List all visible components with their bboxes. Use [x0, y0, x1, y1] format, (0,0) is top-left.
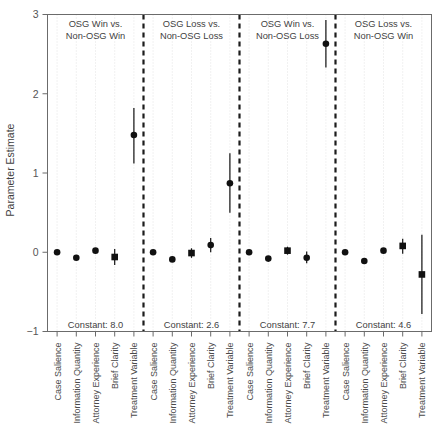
- estimate-point-group: [207, 238, 214, 252]
- y-tick-label: −1: [27, 325, 39, 337]
- x-category-label: Case Salience: [53, 343, 63, 401]
- panel-constant-label: Constant: 7.7: [260, 320, 315, 330]
- estimate-point-group: [380, 247, 387, 254]
- x-category-label: Treatment Variable: [129, 343, 139, 419]
- estimate-point-group: [188, 248, 195, 258]
- plot-canvas: Parameter Estimate 3210−1 OSG Win vs.Non…: [0, 0, 439, 443]
- estimate-point-group: [284, 247, 291, 255]
- estimate-point-group: [92, 247, 99, 254]
- x-category-label: Treatment Variable: [417, 343, 427, 419]
- estimate-marker-circle: [73, 254, 80, 261]
- panel-title-line1: OSG Win vs.: [261, 19, 315, 29]
- x-category-label: Case Salience: [245, 343, 255, 401]
- y-tick-label: 2: [33, 88, 39, 100]
- x-axis-category-labels: Case SalienceInformation QuantityAttorne…: [53, 342, 428, 424]
- panel-title-line1: OSG Loss vs.: [163, 19, 220, 29]
- y-tick-label: 3: [33, 8, 39, 20]
- panel-constant-label: Constant: 8.0: [68, 320, 123, 330]
- estimate-point-group: [131, 108, 138, 163]
- x-category-label: Brief Clarity: [206, 342, 216, 389]
- coefficient-plot-figure: Parameter Estimate 3210−1 OSG Win vs.Non…: [0, 0, 439, 443]
- estimate-marker-square: [188, 250, 195, 257]
- x-category-label: Attorney Experience: [91, 343, 101, 424]
- estimate-point-group: [246, 249, 253, 256]
- y-axis-ticks: 3210−1: [27, 8, 48, 337]
- estimate-marker-circle: [323, 41, 330, 48]
- panel-title-line2: Non-OSG Win: [66, 31, 125, 41]
- estimate-point-group: [265, 255, 272, 262]
- estimate-point-group: [303, 251, 310, 263]
- x-category-label: Brief Clarity: [398, 342, 408, 389]
- estimate-marker-circle: [246, 249, 253, 256]
- estimate-point-group: [73, 254, 80, 261]
- estimate-marker-circle: [380, 247, 387, 254]
- estimate-marker-square: [111, 254, 118, 261]
- estimate-marker-circle: [131, 132, 138, 139]
- estimate-point-group: [54, 249, 61, 256]
- y-tick-label: 1: [33, 167, 39, 179]
- x-category-label: Attorney Experience: [283, 343, 293, 424]
- estimate-marker-circle: [54, 249, 61, 256]
- panel-title-line1: OSG Win vs.: [69, 19, 123, 29]
- x-category-label: Information Quantity: [360, 342, 370, 424]
- panel-constant-label: Constant: 2.6: [164, 320, 219, 330]
- estimate-point-group: [399, 239, 406, 254]
- estimate-point-group: [419, 235, 426, 314]
- estimate-marker-circle: [265, 255, 272, 262]
- estimate-point-group: [227, 153, 234, 212]
- estimate-point-group: [169, 256, 176, 263]
- panel-title-line2: Non-OSG Win: [354, 31, 413, 41]
- estimate-marker-circle: [207, 242, 214, 249]
- estimate-marker-square: [284, 247, 291, 254]
- panel-separators: [144, 15, 336, 332]
- estimate-point-group: [361, 258, 368, 265]
- estimate-point-group: [111, 249, 118, 265]
- x-category-label: Information Quantity: [72, 342, 82, 424]
- y-tick-label: 0: [33, 246, 39, 258]
- estimate-marker-square: [419, 271, 426, 278]
- x-category-label: Attorney Experience: [187, 343, 197, 424]
- estimate-marker-square: [399, 243, 406, 250]
- panel-constant-label: Constant: 4.6: [356, 320, 411, 330]
- x-category-label: Case Salience: [341, 343, 351, 401]
- estimate-marker-circle: [361, 258, 368, 265]
- estimate-marker-circle: [92, 247, 99, 254]
- panel-title-line2: Non-OSG Loss: [256, 31, 319, 41]
- estimate-marker-circle: [150, 249, 157, 256]
- x-category-label: Attorney Experience: [379, 343, 389, 424]
- estimate-marker-circle: [303, 254, 310, 261]
- panel-title-line1: OSG Loss vs.: [355, 19, 412, 29]
- x-category-label: Information Quantity: [168, 342, 178, 424]
- x-category-label: Information Quantity: [264, 342, 274, 424]
- estimate-point-group: [150, 249, 157, 256]
- x-category-label: Treatment Variable: [321, 343, 331, 419]
- x-category-label: Brief Clarity: [302, 342, 312, 389]
- estimate-marker-circle: [169, 256, 176, 263]
- y-axis-title-group: Parameter Estimate: [4, 123, 16, 216]
- y-axis-title: Parameter Estimate: [4, 123, 16, 216]
- estimate-point-group: [323, 20, 330, 68]
- estimate-marker-circle: [227, 180, 234, 187]
- x-category-label: Brief Clarity: [110, 342, 120, 389]
- estimate-point-group: [342, 249, 349, 256]
- x-axis-ticks: [57, 332, 422, 337]
- x-category-label: Case Salience: [149, 343, 159, 401]
- estimate-marker-circle: [342, 249, 349, 256]
- panel-title-line2: Non-OSG Loss: [160, 31, 223, 41]
- x-category-label: Treatment Variable: [225, 343, 235, 419]
